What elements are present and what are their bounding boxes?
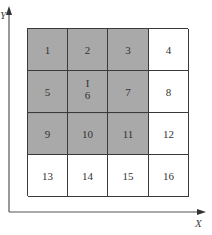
cell-label: 3 (125, 44, 131, 56)
grid-cell-9: 9 (28, 113, 68, 155)
cell-label: 8 (166, 86, 172, 98)
grid-cell-12: 12 (149, 113, 189, 155)
cell-label: 5 (45, 86, 51, 98)
grid-cell-15: 15 (108, 155, 149, 197)
grid-cell-10: 10 (68, 113, 108, 155)
y-axis-label: Y (0, 10, 6, 21)
grid-cell-11: 11 (108, 113, 149, 155)
cell-label: 12 (163, 128, 174, 140)
grid-cell-1: 1 (28, 29, 68, 71)
grid-cell-2: 2 (68, 29, 108, 71)
cell-label: 10 (82, 128, 93, 140)
grid-diagram: Y X 1 2 3 4 5 I 6 7 8 9 10 11 12 13 14 1… (0, 0, 212, 235)
grid-cell-16: 16 (149, 155, 189, 197)
cell-label: 6 (85, 89, 91, 101)
grid-cell-5: 5 (28, 71, 68, 113)
x-axis-label: X (195, 218, 202, 229)
cell-grid: 1 2 3 4 5 I 6 7 8 9 10 11 12 13 14 15 16 (27, 28, 188, 196)
cell-label: 4 (166, 44, 172, 56)
cell-label: 16 (163, 170, 174, 182)
cell-label: 7 (125, 86, 131, 98)
grid-cell-6: I 6 (68, 71, 108, 113)
grid-cell-8: 8 (149, 71, 189, 113)
y-axis-arrow-icon (6, 6, 12, 15)
dotted-divider (28, 113, 147, 114)
grid-cell-4: 4 (149, 29, 189, 71)
grid-cell-13: 13 (28, 155, 68, 197)
x-axis-arrow-icon (197, 209, 206, 215)
cell-label: 9 (45, 128, 51, 140)
grid-cell-14: 14 (68, 155, 108, 197)
cell-label: 1 (45, 44, 51, 56)
cell-label: 13 (42, 170, 53, 182)
cell-label: 15 (123, 170, 134, 182)
cell-label: 2 (85, 44, 91, 56)
grid-cell-3: 3 (108, 29, 149, 71)
cell-label: 11 (123, 128, 134, 140)
cell-label: 14 (82, 170, 93, 182)
cell-marker: I (86, 77, 90, 89)
grid-cell-7: 7 (108, 71, 149, 113)
